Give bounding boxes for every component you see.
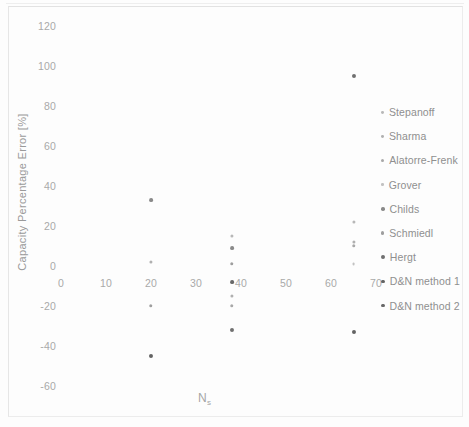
data-point <box>230 294 233 297</box>
legend-label: D&N method 1 <box>390 275 460 287</box>
x-axis-title-subscript: s <box>207 398 211 407</box>
x-tick-60: 60 <box>325 277 337 289</box>
x-axis-title: Ns <box>198 391 211 407</box>
legend-marker-icon <box>381 207 385 211</box>
legend-label: D&N method 2 <box>390 300 460 312</box>
x-tick-30: 30 <box>190 277 202 289</box>
x-tick-0: 0 <box>58 277 64 289</box>
x-tick-40: 40 <box>235 277 247 289</box>
data-point <box>352 220 355 223</box>
y-tick-60: 60 <box>30 140 56 152</box>
data-point <box>230 246 234 250</box>
legend-label: Stepanoff <box>389 106 435 118</box>
data-point <box>230 328 234 332</box>
x-tick-10: 10 <box>100 277 112 289</box>
legend-item-d-n-method-2[interactable]: D&N method 2 <box>381 294 469 318</box>
legend-label: Alatorre-Frenk <box>389 154 458 166</box>
x-axis-title-base: N <box>198 391 207 405</box>
y-tick-0: 0 <box>30 260 56 272</box>
data-point <box>149 198 153 202</box>
y-axis-title: Capacity Percentage Error [%] <box>16 92 28 292</box>
legend-marker-icon <box>381 231 384 234</box>
legend-marker-icon <box>381 304 385 308</box>
legend-marker-icon <box>381 183 384 186</box>
y-tick-120: 120 <box>30 20 56 32</box>
legend-label: Sharma <box>389 130 426 142</box>
legend-marker-icon <box>381 159 384 162</box>
legend-item-childs[interactable]: Childs <box>381 197 469 221</box>
legend-label: Schmiedl <box>389 227 433 239</box>
legend-marker-icon <box>381 280 385 284</box>
y-tick-80: 80 <box>30 100 56 112</box>
y-tick-100: 100 <box>30 60 56 72</box>
data-point <box>149 260 152 263</box>
legend-label: Grover <box>389 179 422 191</box>
data-point <box>351 74 355 78</box>
data-point <box>230 262 233 265</box>
data-point <box>230 234 233 237</box>
data-point <box>230 304 233 307</box>
legend-item-alatorre-frenk[interactable]: Alatorre-Frenk <box>381 148 469 172</box>
legend-item-d-n-method-1[interactable]: D&N method 1 <box>381 269 469 293</box>
legend-item-grover[interactable]: Grover <box>381 173 469 197</box>
legend-item-schmiedl[interactable]: Schmiedl <box>381 221 469 245</box>
x-tick-50: 50 <box>280 277 292 289</box>
legend: StepanoffSharmaAlatorre-FrenkGroverChild… <box>381 100 469 318</box>
data-point <box>149 354 153 358</box>
data-point <box>352 240 355 243</box>
legend-marker-icon <box>381 111 384 114</box>
chart-figure: 010203040506070 120100806040200-20-40-60… <box>0 0 469 427</box>
data-point <box>351 330 355 334</box>
y-tick--40: -40 <box>30 340 56 352</box>
legend-label: Hergt <box>390 251 416 263</box>
legend-item-sharma[interactable]: Sharma <box>381 124 469 148</box>
x-tick-20: 20 <box>145 277 157 289</box>
y-tick-20: 20 <box>30 220 56 232</box>
data-point <box>149 304 152 307</box>
y-tick-40: 40 <box>30 180 56 192</box>
legend-item-hergt[interactable]: Hergt <box>381 245 469 269</box>
data-point <box>352 263 355 266</box>
legend-marker-icon <box>381 255 385 259</box>
legend-item-stepanoff[interactable]: Stepanoff <box>381 100 469 124</box>
legend-label: Childs <box>390 203 420 215</box>
y-tick--20: -20 <box>30 300 56 312</box>
data-point <box>230 280 234 284</box>
legend-marker-icon <box>381 135 384 138</box>
y-tick--60: -60 <box>30 380 56 392</box>
data-point <box>352 244 355 247</box>
